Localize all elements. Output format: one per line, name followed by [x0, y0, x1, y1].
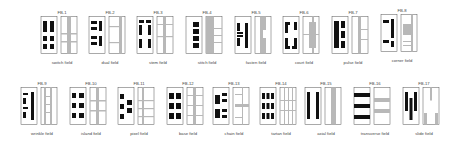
corner-field-diagram — [380, 14, 424, 52]
panel-fb-17: FB-17 slide field — [402, 81, 446, 141]
panel-fb-2: FB-2 dual field — [88, 10, 132, 70]
panel-code: FB-11 — [117, 81, 161, 86]
panel-code: FB-8 — [380, 8, 424, 13]
panel-fb-12: FB-12 base field — [166, 81, 210, 141]
panel-code: FB-10 — [69, 81, 113, 86]
panel-code: FB-13 — [212, 81, 256, 86]
panel-code: FB-7 — [331, 10, 375, 15]
switch-field-diagram — [40, 16, 84, 54]
panel-fb-15: FB-15 axial field — [304, 81, 348, 141]
panel-fb-9: FB-9 wrinkle field — [20, 81, 64, 141]
axial-field-diagram — [304, 87, 348, 125]
panel-code: FB-2 — [88, 10, 132, 15]
fasten-field-diagram — [234, 16, 278, 54]
panel-fb-8: FB-8 corner field — [380, 8, 424, 68]
panel-code: FB-4 — [185, 10, 229, 15]
transverse-field-diagram — [353, 87, 397, 125]
panel-code: FB-9 — [20, 81, 64, 86]
panel-code: FB-14 — [259, 81, 303, 86]
panel-code: FB-16 — [353, 81, 397, 86]
tartan-field-diagram — [259, 87, 303, 125]
panel-fb-7: FB-7 pulse field — [331, 10, 375, 70]
panel-caption: court field — [276, 60, 332, 65]
stitch-field-diagram — [185, 16, 229, 54]
panel-code: FB-5 — [234, 10, 278, 15]
panel-fb-11: FB-11 pixel field — [117, 81, 161, 141]
panel-caption: corner field — [374, 58, 430, 63]
panel-fb-13: FB-13 chain field — [212, 81, 256, 141]
panel-fb-3: FB-3 stem field — [136, 10, 180, 70]
panel-code: FB-1 — [40, 10, 84, 15]
panel-caption: axial field — [298, 131, 354, 136]
panel-fb-10: FB-10 island field — [69, 81, 113, 141]
dual-field-diagram — [88, 16, 132, 54]
panel-caption: transverse field — [347, 131, 403, 136]
pixel-field-diagram — [117, 87, 161, 125]
panel-caption: stitch field — [179, 60, 235, 65]
panel-code: FB-3 — [136, 10, 180, 15]
panel-fb-1: FB-1 switch field — [40, 10, 84, 70]
panel-caption: stem field — [130, 60, 186, 65]
panel-caption: wrinkle field — [14, 131, 70, 136]
panel-fb-4: FB-4 stitch field — [185, 10, 229, 70]
chain-field-diagram — [212, 87, 256, 125]
panel-fb-6: FB-6 court field — [282, 10, 326, 70]
panel-code: FB-17 — [402, 81, 446, 86]
panel-fb-5: FB-5 fasten field — [234, 10, 278, 70]
panel-code: FB-15 — [304, 81, 348, 86]
base-field-diagram — [166, 87, 210, 125]
panel-caption: pixel field — [111, 131, 167, 136]
slide-field-diagram — [402, 87, 446, 125]
panel-code: FB-12 — [166, 81, 210, 86]
island-field-diagram — [69, 87, 113, 125]
wrinkle-field-diagram — [20, 87, 64, 125]
panel-caption: pulse field — [325, 60, 381, 65]
panel-code: FB-6 — [282, 10, 326, 15]
court-field-diagram — [282, 16, 326, 54]
panel-fb-14: FB-14 tartan field — [259, 81, 303, 141]
panel-fb-16: FB-16 transverse field — [353, 81, 397, 141]
stem-field-diagram — [136, 16, 180, 54]
panel-caption: slide field — [396, 131, 452, 136]
pulse-field-diagram — [331, 16, 375, 54]
